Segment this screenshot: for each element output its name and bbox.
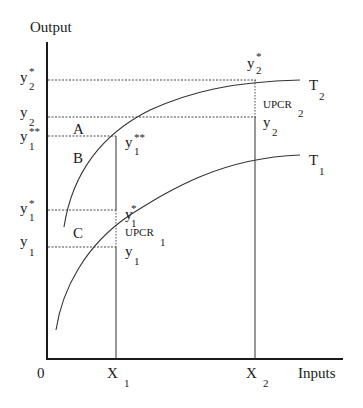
svg-text:*: * xyxy=(29,197,35,209)
region-b-label: B xyxy=(73,150,83,166)
svg-text:UPCR: UPCR xyxy=(263,98,292,110)
y-tick-y1: y 1 xyxy=(20,233,35,258)
x-axis-label: Inputs xyxy=(298,365,336,381)
svg-text:y: y xyxy=(247,55,255,71)
svg-text:1: 1 xyxy=(134,255,140,267)
svg-text:2: 2 xyxy=(29,80,35,92)
svg-text:**: ** xyxy=(134,131,145,143)
annotation-x1-y1-star: y * 1 xyxy=(125,202,137,229)
svg-text:UPCR: UPCR xyxy=(125,226,154,238)
svg-text:2: 2 xyxy=(256,64,262,76)
svg-text:y: y xyxy=(20,104,28,120)
svg-text:1: 1 xyxy=(134,145,140,157)
x-tick-x2-sub: 2 xyxy=(263,377,269,389)
annotation-x1-y1: y 1 xyxy=(125,243,140,267)
y-tick-y1-star: y * 1 xyxy=(20,197,35,223)
svg-text:*: * xyxy=(256,50,262,62)
svg-text:2: 2 xyxy=(319,90,325,102)
svg-text:**: ** xyxy=(29,125,40,137)
production-diagram: Output Inputs 0 X 1 X 2 y * 2 y 2 y ** 1… xyxy=(0,0,363,408)
curve-t1 xyxy=(56,155,300,330)
svg-text:2: 2 xyxy=(298,107,304,119)
annotation-x2-y2: y 2 xyxy=(263,114,278,138)
svg-text:T: T xyxy=(309,152,318,168)
svg-text:y: y xyxy=(20,233,28,249)
svg-text:1: 1 xyxy=(29,246,35,258)
svg-text:1: 1 xyxy=(29,211,35,223)
x-tick-x2: X xyxy=(246,365,257,381)
svg-text:y: y xyxy=(20,128,28,144)
svg-text:*: * xyxy=(29,65,35,77)
region-c-label: C xyxy=(73,225,83,241)
svg-text:y: y xyxy=(125,134,133,150)
origin-label: 0 xyxy=(37,365,45,381)
curve-t1-label: T 1 xyxy=(309,152,325,177)
svg-text:2: 2 xyxy=(272,126,278,138)
annotation-x2-y2-star: y * 2 xyxy=(247,50,262,76)
svg-text:1: 1 xyxy=(160,236,166,248)
x-tick-x1-sub: 1 xyxy=(124,377,130,389)
svg-text:*: * xyxy=(131,202,137,214)
region-a-label: A xyxy=(73,121,84,137)
y-tick-y2-star: y * 2 xyxy=(20,65,35,92)
svg-text:y: y xyxy=(20,200,28,216)
svg-text:y: y xyxy=(125,243,133,259)
svg-text:y: y xyxy=(263,114,271,130)
x-tick-x1: X xyxy=(107,365,118,381)
y-axis-label: Output xyxy=(30,19,73,35)
svg-text:1: 1 xyxy=(29,140,35,152)
svg-text:T: T xyxy=(309,77,318,93)
annotation-x1-y1-doublestar: y ** 1 xyxy=(125,131,145,157)
svg-text:y: y xyxy=(20,69,28,85)
y-tick-y1-doublestar: y ** 1 xyxy=(20,125,40,152)
svg-text:1: 1 xyxy=(319,165,325,177)
curve-t2-label: T 2 xyxy=(309,77,325,102)
